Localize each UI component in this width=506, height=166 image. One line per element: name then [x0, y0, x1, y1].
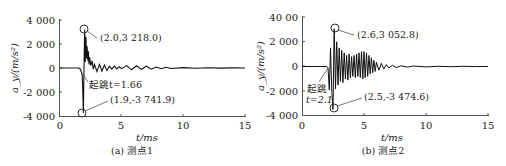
peak-marker [80, 25, 88, 33]
onset-label-line1: 起跳 [307, 83, 327, 94]
y-axis-a: 4 000 2 000 0 -2 000 -4 000 a_y/(m/s²) [9, 15, 62, 123]
x-axis-label: t/ms [381, 132, 403, 143]
y-tick-label: -2 000 [23, 87, 55, 98]
y-tick-label: 0 [292, 61, 298, 72]
y-tick-label: 0 [49, 63, 55, 74]
y-axis-b: 40 00 2 000 0 -2 000 -4 000 a_y/(m/s²) [255, 12, 305, 122]
figure: 4 000 2 000 0 -2 000 -4 000 a_y/(m/s²) 0… [0, 0, 506, 166]
y-axis-label: a_y/(m/s²) [255, 41, 267, 91]
y-tick-label: 2 000 [26, 39, 55, 50]
x-tick-label: 15 [482, 120, 495, 131]
x-tick-label: 5 [118, 120, 124, 131]
onset-label-line2: t=2.1 [306, 94, 333, 105]
y-tick-label: -4 000 [23, 111, 55, 122]
trough-marker [330, 104, 338, 112]
chart-panel-a: 4 000 2 000 0 -2 000 -4 000 a_y/(m/s²) 0… [9, 15, 251, 157]
y-tick-label: 4 000 [26, 15, 55, 26]
x-tick-label: 15 [239, 120, 252, 131]
annotation-max: (2.0,3 218.0) [100, 32, 162, 43]
y-tick-label: -4 000 [266, 110, 298, 121]
x-tick-label: 10 [420, 120, 433, 131]
x-axis-label: t/ms [136, 132, 158, 143]
y-tick-label: 40 00 [269, 12, 298, 23]
y-tick-label: -2 000 [266, 86, 298, 97]
annotation-max: (2.6,3 052.8) [357, 29, 419, 40]
x-tick-label: 5 [361, 120, 367, 131]
x-tick-label: 0 [299, 120, 305, 131]
annotations-a: (2.0,3 218.0) (1.9,-3 741.9) 起跳t=1.66 [78, 25, 175, 117]
trough-marker [78, 109, 86, 117]
x-tick-label: 10 [177, 120, 190, 131]
chart-panel-b: 40 00 2 000 0 -2 000 -4 000 a_y/(m/s²) 0… [255, 12, 494, 157]
panel-caption: (b) 测点2 [362, 145, 405, 156]
x-axis-a: 0 5 10 15 t/ms (a) 测点1 [57, 114, 252, 156]
y-tick-label: 2 000 [269, 36, 298, 47]
x-tick-label: 0 [57, 120, 63, 131]
annotation-min: (1.9,-3 741.9) [110, 94, 175, 105]
y-axis-label: a_y/(m/s²) [9, 43, 21, 93]
annotation-min: (2.5,-3 474.6) [364, 91, 429, 102]
peak-marker [331, 24, 339, 32]
onset-label: 起跳t=1.66 [89, 79, 142, 90]
x-axis-b: 0 5 10 15 t/ms (b) 测点2 [299, 113, 495, 156]
panel-caption: (a) 测点1 [111, 145, 153, 156]
